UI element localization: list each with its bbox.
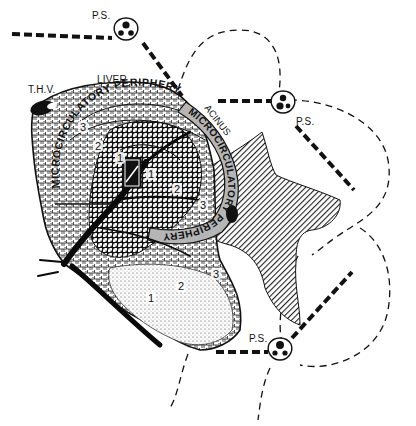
axis-bottom-diagonal	[292, 272, 352, 338]
ps-label-top: P.S.	[92, 10, 110, 21]
zone-label: 2	[176, 280, 186, 292]
portal-triad-icon-top	[114, 18, 138, 40]
ps-label-right: P.S.	[296, 116, 314, 127]
ps-label-bottom: P.S.	[249, 333, 267, 344]
branch-5	[38, 272, 58, 276]
axis-top-horizontal	[12, 34, 112, 38]
outline-lower-right-loop	[300, 228, 390, 367]
outline-left-tail	[170, 354, 188, 408]
outline-upper-loop	[178, 30, 280, 98]
portal-triad-icon-bottom	[268, 338, 292, 360]
thv-label: T.H.V.	[28, 84, 56, 95]
inset-rectangle	[123, 158, 141, 188]
branch-4	[40, 260, 62, 262]
diagram-canvas: MICROCIRCULATORY PERIPHERY MICROCIRCULAT…	[0, 0, 416, 426]
zone-label: 3	[198, 199, 208, 211]
zone-label: 3	[78, 121, 88, 133]
liver-acinus-diagram: MICROCIRCULATORY PERIPHERY MICROCIRCULAT…	[0, 0, 416, 426]
zone-label: 2	[172, 183, 182, 195]
zone-label: 1	[115, 152, 125, 164]
zone-label: 3	[211, 268, 221, 280]
zone-label: 2	[93, 140, 103, 152]
zone-label: 1	[146, 292, 156, 304]
axis-right-diagonal	[296, 126, 354, 190]
outline-bottom-tail	[258, 368, 270, 420]
portal-triad-icon-right	[271, 91, 295, 113]
zone-label: 1	[146, 168, 156, 180]
liver-label: LIVER	[97, 74, 127, 85]
